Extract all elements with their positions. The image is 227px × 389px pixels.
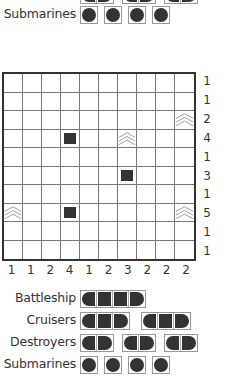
grid-cell[interactable] (99, 111, 118, 130)
grid-cell-water[interactable] (4, 204, 23, 223)
grid-cell[interactable] (99, 222, 118, 241)
grid-cell[interactable] (137, 74, 156, 93)
grid-cell[interactable] (4, 148, 23, 167)
grid-cell[interactable] (80, 111, 99, 130)
grid-cell[interactable] (4, 241, 23, 260)
grid-cell[interactable] (80, 167, 99, 186)
grid-cell[interactable] (23, 167, 42, 186)
grid-cell[interactable] (99, 148, 118, 167)
grid-cell[interactable] (80, 130, 99, 149)
grid-cell[interactable] (80, 74, 99, 93)
grid-cell[interactable] (80, 93, 99, 112)
grid-cell[interactable] (156, 93, 175, 112)
grid-cell[interactable] (156, 241, 175, 260)
grid-cell[interactable] (156, 222, 175, 241)
grid-cell[interactable] (61, 185, 80, 204)
grid-cell-ship-segment[interactable] (118, 167, 137, 186)
grid-cell[interactable] (175, 130, 194, 149)
grid-cell[interactable] (80, 222, 99, 241)
grid-cell[interactable] (42, 204, 61, 223)
grid-cell[interactable] (137, 185, 156, 204)
grid-cell-ship-segment[interactable] (61, 204, 80, 223)
grid-cell[interactable] (137, 167, 156, 186)
grid-cell[interactable] (99, 185, 118, 204)
grid-cell[interactable] (118, 222, 137, 241)
grid-cell[interactable] (23, 204, 42, 223)
grid-cell[interactable] (175, 185, 194, 204)
grid-cell[interactable] (137, 130, 156, 149)
grid-cell-water[interactable] (175, 111, 194, 130)
grid-cell[interactable] (118, 93, 137, 112)
grid-cell[interactable] (42, 167, 61, 186)
grid-cell[interactable] (175, 74, 194, 93)
grid-cell[interactable] (23, 111, 42, 130)
grid-cell[interactable] (23, 148, 42, 167)
grid-cell[interactable] (80, 148, 99, 167)
grid-cell[interactable] (80, 241, 99, 260)
grid-cell[interactable] (4, 130, 23, 149)
battleship-grid[interactable] (2, 72, 196, 261)
grid-cell[interactable] (61, 241, 80, 260)
grid-cell[interactable] (118, 241, 137, 260)
grid-cell[interactable] (118, 204, 137, 223)
grid-cell[interactable] (4, 185, 23, 204)
grid-cell[interactable] (99, 74, 118, 93)
grid-cell[interactable] (137, 241, 156, 260)
grid-cell[interactable] (99, 93, 118, 112)
grid-cell[interactable] (156, 74, 175, 93)
grid-cell[interactable] (175, 93, 194, 112)
grid-cell[interactable] (23, 185, 42, 204)
grid-cell[interactable] (156, 204, 175, 223)
grid-cell[interactable] (61, 222, 80, 241)
grid-cell[interactable] (4, 167, 23, 186)
grid-cell-water[interactable] (118, 130, 137, 149)
grid-cell[interactable] (42, 130, 61, 149)
grid-cell[interactable] (137, 93, 156, 112)
grid-cell[interactable] (99, 241, 118, 260)
grid-cell[interactable] (175, 241, 194, 260)
grid-cell[interactable] (99, 130, 118, 149)
grid-cell[interactable] (42, 148, 61, 167)
grid-cell[interactable] (42, 241, 61, 260)
grid-cell[interactable] (137, 148, 156, 167)
grid-cell[interactable] (137, 204, 156, 223)
grid-cell[interactable] (175, 148, 194, 167)
grid-cell[interactable] (23, 222, 42, 241)
grid-cell[interactable] (4, 222, 23, 241)
grid-cell[interactable] (118, 185, 137, 204)
grid-cell[interactable] (156, 148, 175, 167)
grid-cell[interactable] (118, 74, 137, 93)
grid-cell[interactable] (42, 74, 61, 93)
grid-cell-ship-segment[interactable] (61, 130, 80, 149)
grid-cell[interactable] (42, 222, 61, 241)
grid-cell[interactable] (42, 93, 61, 112)
grid-cell[interactable] (4, 93, 23, 112)
grid-cell[interactable] (118, 148, 137, 167)
grid-cell[interactable] (61, 93, 80, 112)
grid-cell-water[interactable] (175, 204, 194, 223)
grid-cell[interactable] (137, 222, 156, 241)
grid-cell[interactable] (99, 204, 118, 223)
grid-cell[interactable] (118, 111, 137, 130)
grid-cell[interactable] (80, 204, 99, 223)
grid-cell[interactable] (99, 167, 118, 186)
grid-cell[interactable] (4, 111, 23, 130)
grid-cell[interactable] (175, 222, 194, 241)
grid-cell[interactable] (156, 185, 175, 204)
grid-cell[interactable] (156, 167, 175, 186)
grid-cell[interactable] (61, 167, 80, 186)
grid-cell[interactable] (42, 111, 61, 130)
grid-cell[interactable] (23, 130, 42, 149)
grid-cell[interactable] (23, 241, 42, 260)
grid-cell[interactable] (61, 148, 80, 167)
grid-cell[interactable] (175, 167, 194, 186)
grid-cell[interactable] (42, 185, 61, 204)
grid-cell[interactable] (61, 111, 80, 130)
grid-cell[interactable] (156, 130, 175, 149)
grid-cell[interactable] (80, 185, 99, 204)
grid-cell[interactable] (4, 74, 23, 93)
grid-cell[interactable] (137, 111, 156, 130)
grid-cell[interactable] (156, 111, 175, 130)
grid-cell[interactable] (23, 93, 42, 112)
grid-cell[interactable] (23, 74, 42, 93)
